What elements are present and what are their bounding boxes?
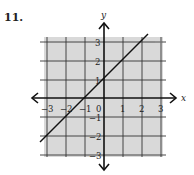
y-tick: 1 (95, 76, 100, 86)
y-tick: −1 (89, 113, 102, 123)
y-tick: 3 (95, 38, 100, 48)
y-tick: −3 (89, 151, 102, 161)
y-tick: 2 (95, 57, 100, 67)
x-tick: 1 (120, 104, 125, 114)
x-tick: −2 (60, 104, 73, 114)
y-axis-label: y (100, 10, 107, 20)
x-tick: 2 (139, 104, 144, 114)
x-axis-label: x (181, 93, 186, 103)
x-tick: −3 (41, 104, 54, 114)
coordinate-graph: x y −3 −2 −1 0 1 2 3 1 2 3 −1 −2 −3 (0, 0, 194, 175)
x-tick: 3 (158, 104, 163, 114)
y-tick: −2 (89, 132, 102, 142)
